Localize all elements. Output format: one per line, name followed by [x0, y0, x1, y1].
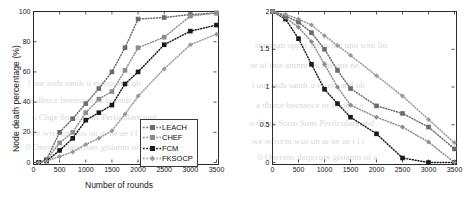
y-tick-label: 100	[8, 8, 31, 15]
x-tick-label: 3000	[415, 166, 443, 173]
y-tick-label: 0.5	[247, 121, 270, 128]
y-tick-label: 60	[8, 68, 31, 75]
x-tick-label: 2000	[363, 166, 391, 173]
y-tick-label: 40	[8, 98, 31, 105]
x-tick-label: 1500	[98, 166, 126, 173]
x-tick-label: 500	[46, 166, 74, 173]
legend-marker-square-icon	[143, 144, 162, 153]
legend-item-fcm[interactable]: FCM	[143, 143, 193, 154]
legend-item-chef[interactable]: CHEF	[143, 133, 193, 144]
chart-node-death-percentage: Node death percentage (%) Number of roun…	[0, 0, 234, 215]
legend-label-fcm: FCM	[162, 144, 178, 153]
legend-marker-square-icon	[143, 123, 162, 132]
legend-item-leach[interactable]: LEACH	[143, 122, 193, 133]
y-tick-label: 80	[8, 38, 31, 45]
legend-left: LEACH CHEF FCM FKSOCP	[140, 119, 198, 167]
x-tick-label: 0	[20, 166, 48, 173]
plot-canvas-right	[234, 0, 468, 215]
y-tick-label: 0	[8, 159, 31, 166]
y-tick-label: 0	[247, 159, 270, 166]
y-tick-label: 1.5	[247, 45, 270, 52]
series-chef	[270, 9, 457, 165]
x-tick-label: 1000	[311, 166, 339, 173]
legend-label-chef: CHEF	[162, 133, 182, 142]
x-tick-label: 1000	[72, 166, 100, 173]
legend-item-fksocp[interactable]: FKSOCP	[143, 154, 193, 165]
legend-marker-square-icon	[143, 133, 162, 142]
x-tick-label: 1500	[337, 166, 365, 173]
series-fcm	[270, 9, 457, 151]
x-tick-label: 2500	[389, 166, 417, 173]
x-axis-label-left: Number of rounds	[85, 180, 153, 190]
y-tick-label: 20	[8, 128, 31, 135]
x-tick-label: 3500	[203, 166, 231, 173]
legend-label-leach: LEACH	[162, 123, 187, 132]
x-tick-label: 3500	[441, 166, 468, 173]
legend-label-fksocp: FKSOCP	[162, 154, 193, 163]
x-tick-label: 500	[285, 166, 313, 173]
x-tick-label: 0	[259, 166, 287, 173]
y-tick-label: 1	[247, 83, 270, 90]
legend-marker-diamond-icon	[143, 154, 162, 163]
chart-avg-residual-energy: Number of rounds LEACH CHEF FCM FKSOCP	[234, 0, 468, 215]
y-tick-label: 2	[247, 8, 270, 15]
